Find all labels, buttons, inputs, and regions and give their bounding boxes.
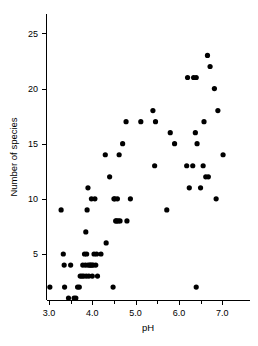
data-point bbox=[120, 141, 125, 146]
y-axis-title: Number of species bbox=[8, 117, 19, 196]
y-tick-label: 20 bbox=[28, 84, 38, 94]
scatter-plot-figure: 510152025 3.04.05.06.07.0 pH Number of s… bbox=[0, 0, 258, 346]
data-point bbox=[59, 207, 64, 212]
data-point bbox=[117, 218, 122, 223]
data-point bbox=[194, 284, 199, 289]
data-point bbox=[73, 296, 78, 301]
data-point bbox=[61, 251, 66, 256]
data-point bbox=[153, 119, 158, 124]
data-point bbox=[77, 284, 82, 289]
data-point bbox=[104, 240, 109, 245]
data-point bbox=[184, 163, 189, 168]
data-point bbox=[206, 174, 211, 179]
x-axis-title: pH bbox=[142, 322, 154, 333]
data-point bbox=[201, 119, 206, 124]
data-point bbox=[62, 262, 67, 267]
data-point bbox=[172, 141, 177, 146]
data-point bbox=[110, 284, 115, 289]
data-point bbox=[90, 273, 95, 278]
data-point bbox=[193, 130, 198, 135]
data-point bbox=[107, 174, 112, 179]
y-tick-label: 25 bbox=[28, 29, 38, 39]
data-point bbox=[95, 273, 100, 278]
data-point bbox=[185, 75, 190, 80]
data-point bbox=[123, 119, 128, 124]
x-axis: 3.04.05.06.07.0 bbox=[43, 301, 250, 319]
data-point bbox=[215, 108, 220, 113]
y-axis-tick-labels: 510152025 bbox=[28, 29, 38, 260]
x-tick-label: 4.0 bbox=[86, 308, 99, 318]
data-point bbox=[194, 141, 199, 146]
data-point bbox=[212, 86, 217, 91]
data-point bbox=[85, 207, 90, 212]
y-axis-ticks bbox=[42, 34, 47, 255]
data-point bbox=[205, 53, 210, 58]
y-axis: 510152025 bbox=[28, 14, 47, 300]
x-tick-label: 3.0 bbox=[43, 308, 56, 318]
x-axis-ticks bbox=[50, 301, 223, 306]
data-point bbox=[190, 163, 195, 168]
data-point bbox=[85, 185, 90, 190]
data-point bbox=[66, 296, 71, 301]
y-tick-label: 10 bbox=[28, 194, 38, 204]
data-point bbox=[168, 130, 173, 135]
data-point bbox=[115, 196, 120, 201]
data-point bbox=[201, 163, 206, 168]
x-tick-label: 7.0 bbox=[216, 308, 229, 318]
y-tick-label: 5 bbox=[33, 249, 38, 259]
y-tick-label: 15 bbox=[28, 139, 38, 149]
x-tick-label: 6.0 bbox=[173, 308, 186, 318]
data-point bbox=[117, 152, 122, 157]
data-points-layer bbox=[47, 53, 225, 301]
data-point bbox=[93, 262, 98, 267]
data-point bbox=[62, 284, 67, 289]
data-point bbox=[128, 196, 133, 201]
data-point bbox=[194, 75, 199, 80]
data-point bbox=[83, 229, 88, 234]
data-point bbox=[207, 64, 212, 69]
data-point bbox=[220, 152, 225, 157]
data-point bbox=[187, 185, 192, 190]
data-point bbox=[84, 251, 89, 256]
data-point bbox=[164, 207, 169, 212]
data-point bbox=[47, 284, 52, 289]
data-point bbox=[150, 108, 155, 113]
data-point bbox=[92, 196, 97, 201]
data-point bbox=[98, 251, 103, 256]
x-axis-tick-labels: 3.04.05.06.07.0 bbox=[43, 308, 229, 318]
data-point bbox=[68, 262, 73, 267]
data-point bbox=[124, 218, 129, 223]
data-point bbox=[138, 119, 143, 124]
data-point bbox=[198, 185, 203, 190]
data-point bbox=[214, 196, 219, 201]
x-tick-label: 5.0 bbox=[129, 308, 142, 318]
data-point bbox=[152, 163, 157, 168]
chart-canvas: 510152025 3.04.05.06.07.0 pH Number of s… bbox=[0, 0, 258, 346]
data-point bbox=[103, 152, 108, 157]
